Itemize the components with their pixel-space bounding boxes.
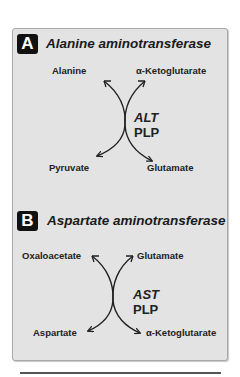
arrow-oxaloacetate-to-aspartate — [88, 256, 113, 331]
arrow-akg-to-glutamate — [125, 81, 152, 161]
arrow-glutamate-to-akg — [113, 256, 140, 333]
arrow-alanine-to-pyruvate — [97, 81, 125, 156]
divider-rule — [20, 372, 221, 374]
reaction-arrows — [0, 0, 240, 377]
